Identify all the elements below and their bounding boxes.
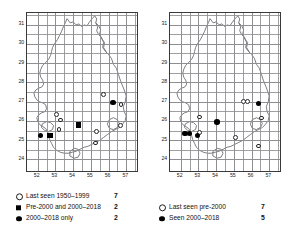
axis-tick-label-y: 31 [13,21,24,26]
map-marker-open-circle [101,92,106,97]
axis-tick-label-y: 28 [156,79,167,84]
map-plot-area-right [169,12,281,172]
gridline-horizontal-minor [27,15,137,16]
gridline-horizontal [27,159,137,160]
axis-tick-label-x: 53 [190,173,204,178]
axis-tick-label-y: 30 [13,40,24,45]
axis-tick-label-y: 25 [13,137,24,142]
legend-symbol-filled-square-icon [14,202,26,213]
map-marker-filled-circle [110,100,115,105]
gridline-horizontal-minor [27,131,137,132]
axis-tick-label-x: 57 [118,173,132,178]
axis-tick-label-x: 57 [261,173,275,178]
legend-label: Pre-2000 and 2000–2018 [26,204,101,211]
axis-tick-label-y: 30 [156,40,167,45]
map-marker-open-circle [233,135,238,140]
legend-row: Seen 2000–20185 [157,213,290,224]
gridline-horizontal [170,82,280,83]
legend-row: 2000–2018 only2 [14,213,145,224]
gridline-horizontal-minor [27,150,137,151]
gridline-horizontal [170,25,280,26]
legend-label: Last seen 1950–1999 [26,193,89,200]
gridline-horizontal-minor [170,111,280,112]
gridline-horizontal [170,102,280,103]
legend-row: Last seen pre-20007 [157,202,290,213]
distribution-map-figure: Last seen 1950–19997Pre-2000 and 2000–20… [0,0,290,227]
map-plot-area-left [26,12,138,172]
map-marker-open-circle [118,123,123,128]
axis-tick-label-y: 24 [156,156,167,161]
map-marker-open-circle [93,141,98,146]
legend-label: Last seen pre-2000 [169,204,226,211]
map-marker-filled-circle [214,119,219,124]
gridline-horizontal [170,121,280,122]
legend-row: Last seen 1950–19997 [14,191,145,202]
gridline-horizontal [27,44,137,45]
map-marker-open-circle [245,99,250,104]
legend-row: Pre-2000 and 2000–20182 [14,202,145,213]
gridline-horizontal [27,121,137,122]
legend-symbol-filled-circle-icon [157,213,169,224]
gridline-horizontal [27,140,137,141]
axis-tick-label-y: 25 [156,137,167,142]
gridline-horizontal-minor [170,150,280,151]
axis-tick-label-y: 26 [13,117,24,122]
gridline-horizontal [27,25,137,26]
axis-tick-label-x: 52 [173,173,187,178]
axis-tick-label-x: 56 [101,173,115,178]
legend-left: Last seen 1950–19997Pre-2000 and 2000–20… [14,191,145,224]
gridline-horizontal [27,63,137,64]
gridline-horizontal-minor [27,53,137,54]
map-marker-open-circle [54,112,59,117]
axis-tick-label-y: 27 [156,98,167,103]
legend-count: 2 [114,215,118,222]
axis-tick-label-y: 28 [13,79,24,84]
legend-right: Last seen pre-20007Seen 2000–20185 [157,202,290,224]
axis-tick-label-y: 24 [13,156,24,161]
axis-tick-label-y: 29 [156,60,167,65]
legend-label: 2000–2018 only [26,215,73,222]
map-marker-filled-square [47,133,53,139]
legend-symbol-open-circle-icon [157,202,169,213]
axis-tick-label-x: 52 [30,173,44,178]
gridline-horizontal-minor [170,53,280,54]
gridline-horizontal-minor [27,111,137,112]
axis-tick-label-x: 55 [83,173,97,178]
map-marker-open-circle [259,116,264,121]
map-panel-right: Last seen pre-20007Seen 2000–20185 31302… [145,0,290,227]
axis-tick-label-y: 29 [13,60,24,65]
legend-count: 5 [261,215,265,222]
legend-count: 7 [261,204,265,211]
gridline-horizontal [170,44,280,45]
axis-tick-label-x: 55 [226,173,240,178]
axis-tick-label-x: 54 [65,173,79,178]
map-marker-open-circle [94,129,99,134]
gridline-horizontal [27,82,137,83]
axis-tick-label-x: 54 [208,173,222,178]
gridline-horizontal [170,63,280,64]
gridline-horizontal-minor [170,73,280,74]
gridline-horizontal-minor [27,92,137,93]
legend-symbol-open-circle-icon [14,191,26,202]
map-marker-open-circle [197,115,202,120]
gridline-horizontal-minor [27,73,137,74]
legend-count: 7 [114,193,118,200]
gridline-horizontal [170,140,280,141]
gridline-horizontal-minor [170,34,280,35]
map-panel-left: Last seen 1950–19997Pre-2000 and 2000–20… [0,0,145,227]
gridline-horizontal [170,159,280,160]
map-marker-filled-circle [38,133,43,138]
axis-tick-label-x: 53 [47,173,61,178]
gridline-horizontal-minor [170,92,280,93]
map-marker-filled-square [76,122,82,128]
gridline-horizontal-minor [27,34,137,35]
axis-tick-label-y: 26 [156,117,167,122]
axis-tick-label-y: 27 [13,98,24,103]
legend-label: Seen 2000–2018 [169,215,219,222]
gridline-horizontal-minor [170,15,280,16]
legend-symbol-filled-circle-icon [14,213,26,224]
axis-tick-label-y: 31 [156,21,167,26]
axis-tick-label-x: 56 [244,173,258,178]
legend-count: 2 [114,204,118,211]
